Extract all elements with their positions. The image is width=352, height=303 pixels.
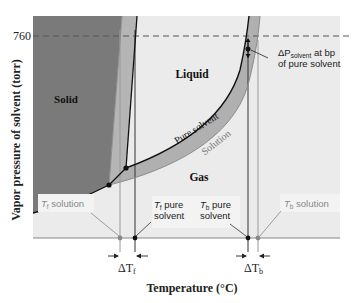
delta-tf-label: ΔTf [118,261,136,276]
tf-pure-dot [133,236,138,241]
gas-label: Gas [189,171,209,183]
delta-tf-sub: f [133,267,136,276]
delta-p-rest: at bp [311,47,335,58]
solid-label: Solid [54,93,78,105]
tb-pure-dot [246,236,251,241]
solution-triple-point [106,182,111,187]
delta-p-symbol: ΔP [278,47,291,58]
delta-p-label-line2: of pure solvent [278,58,341,69]
tf-pure-label-line2: solvent [154,210,184,221]
phase-diagram: 760 Vapor pressure of solvent (torr) Tem… [0,0,352,303]
delta-tb-symbol: ΔT [244,261,260,275]
delta-tf-symbol: ΔT [118,261,134,275]
tb-solution-dot [256,236,261,241]
liquid-label: Liquid [175,68,209,81]
tf-solution-text: solution [49,198,84,209]
delta-p-point [246,47,251,52]
delta-tb-sub: b [259,267,263,276]
delta-tf-right-arrow-icon [136,254,141,259]
y-axis-label: Vapor pressure of solvent (torr) [9,59,23,221]
tb-pure-label-line2: solvent [200,210,230,221]
tf-pure-text1: pure [162,199,184,210]
tb-pure-text1: pure [209,199,231,210]
pure-triple-point [123,165,128,170]
tf-solution-dot [118,236,123,241]
x-axis-label: Temperature (°C) [146,281,237,295]
y-tick-760: 760 [13,29,31,43]
delta-tb-left-arrow-icon [242,254,247,259]
tb-solution-text: solution [293,198,328,209]
delta-tb-right-arrow-icon [259,254,264,259]
delta-tb-label: ΔTb [244,261,263,276]
delta-tf-left-arrow-icon [114,254,119,259]
